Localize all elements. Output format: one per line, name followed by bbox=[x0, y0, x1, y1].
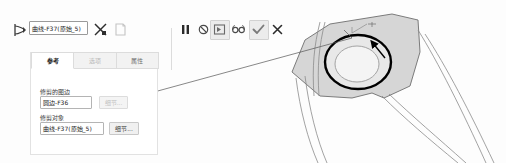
step-forward-icon[interactable] bbox=[212, 22, 227, 37]
pause-icon[interactable] bbox=[178, 22, 193, 37]
tab-options[interactable]: 选项 bbox=[74, 52, 116, 69]
command-reference-field[interactable]: 曲线-F37(原始_5) bbox=[29, 21, 88, 35]
close-x-icon[interactable] bbox=[270, 22, 285, 37]
trim-object-details-button[interactable]: 细节... bbox=[109, 122, 139, 135]
selected-circular-edge[interactable] bbox=[325, 35, 391, 89]
trimmed-edge-label: 修剪的图边 bbox=[40, 87, 70, 96]
trim-object-input[interactable]: 曲线-F37(原始_5) bbox=[40, 122, 104, 135]
trimmed-edge-input[interactable]: 圆边-F36 bbox=[40, 96, 92, 109]
app-root: 曲线-F37(原始_5) bbox=[0, 0, 506, 163]
trim-object-label: 修剪对象 bbox=[40, 113, 64, 122]
cut-scissors-icon[interactable] bbox=[92, 21, 109, 38]
command-bar: 曲线-F37(原始_5) bbox=[0, 18, 300, 44]
model-body bbox=[292, 14, 494, 163]
tab-reference[interactable]: 参考 bbox=[31, 52, 74, 69]
selection-arrow-icon bbox=[12, 22, 28, 38]
stop-circle-icon[interactable] bbox=[196, 22, 211, 37]
reference-dialog: 参考 选项 属性 修剪的图边 圆边-F36 细节... 修剪对象 曲线-F37(… bbox=[30, 52, 158, 155]
dialog-body: 修剪的图边 圆边-F36 细节... 修剪对象 曲线-F37(原始_5) 细节.… bbox=[31, 69, 159, 155]
trimmed-edge-details-button[interactable]: 细节... bbox=[99, 96, 128, 109]
document-icon[interactable] bbox=[112, 21, 129, 38]
glasses-icon[interactable] bbox=[231, 22, 246, 37]
direction-arrow bbox=[372, 42, 385, 58]
checkmark-icon[interactable] bbox=[251, 22, 266, 37]
toolbar-divider bbox=[171, 28, 172, 70]
dialog-tabstrip: 参考 选项 属性 bbox=[31, 52, 159, 69]
tab-properties[interactable]: 属性 bbox=[117, 52, 159, 69]
